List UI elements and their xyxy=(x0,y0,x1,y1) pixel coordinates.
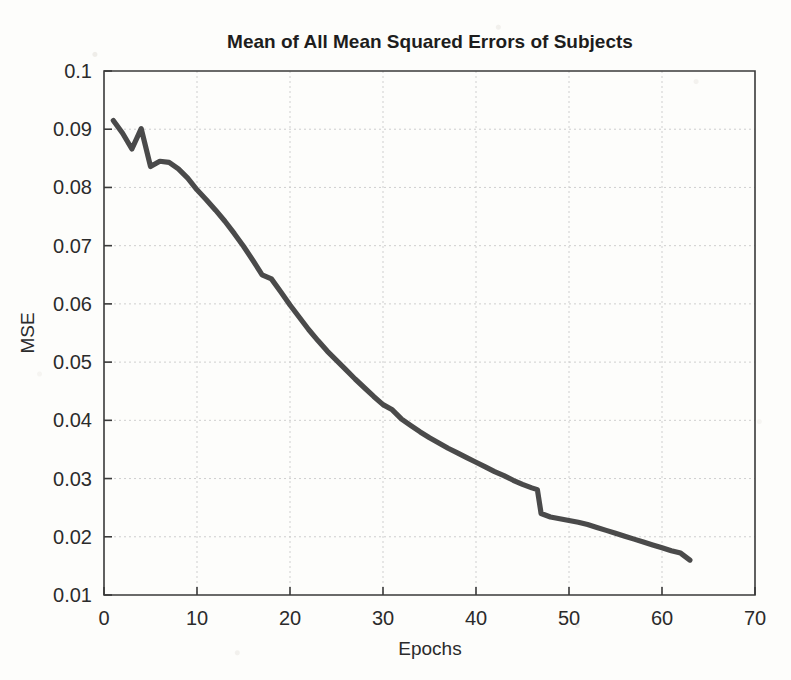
x-tick-label-3: 30 xyxy=(372,607,394,629)
x-tick-label-4: 40 xyxy=(465,607,487,629)
y-tick-label-7: 0.08 xyxy=(53,176,92,198)
y-tick-label-0: 0.01 xyxy=(53,584,92,606)
y-tick-label-9: 0.1 xyxy=(64,60,92,82)
y-tick-label-8: 0.09 xyxy=(53,118,92,140)
x-tick-label-6: 60 xyxy=(651,607,673,629)
y-axis-label: MSE xyxy=(17,312,38,353)
x-tick-label-1: 10 xyxy=(186,607,208,629)
x-axis-label: Epochs xyxy=(398,638,461,659)
x-tick-label-7: 70 xyxy=(744,607,766,629)
y-tick-label-6: 0.07 xyxy=(53,235,92,257)
mse-line-chart: Mean of All Mean Squared Errors of Subje… xyxy=(0,0,791,680)
x-tick-label-5: 50 xyxy=(558,607,580,629)
chart-title: Mean of All Mean Squared Errors of Subje… xyxy=(227,31,633,52)
y-tick-label-3: 0.04 xyxy=(53,409,92,431)
y-tick-label-2: 0.03 xyxy=(53,468,92,490)
x-tick-label-2: 20 xyxy=(279,607,301,629)
chart-figure: Mean of All Mean Squared Errors of Subje… xyxy=(0,0,791,680)
y-tick-label-4: 0.05 xyxy=(53,351,92,373)
y-tick-label-1: 0.02 xyxy=(53,526,92,548)
x-tick-label-0: 0 xyxy=(98,607,109,629)
y-tick-label-5: 0.06 xyxy=(53,293,92,315)
chart-background xyxy=(0,0,791,680)
